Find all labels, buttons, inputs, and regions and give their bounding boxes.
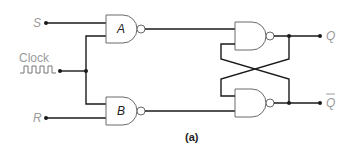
nand-gate-d [235, 89, 266, 117]
gate-label-b: B [117, 104, 125, 118]
input-label-clock: Clock [19, 51, 50, 65]
nand-bubble-d [266, 99, 274, 107]
figure-caption: (a) [185, 131, 199, 143]
wire-clock-fanout [86, 36, 106, 104]
clock-waveform-icon [20, 66, 56, 73]
terminal-qbar [318, 101, 322, 105]
input-label-r: R [33, 111, 42, 125]
terminal-q [318, 34, 322, 38]
output-label-q: Q [326, 29, 335, 43]
nand-gate-c [235, 22, 266, 50]
input-label-s: S [33, 16, 41, 30]
nand-bubble-b [137, 107, 145, 115]
clocked-sr-latch-diagram: S Clock R A B Q Q (a) [0, 0, 354, 151]
junction-clock [84, 69, 88, 73]
nand-bubble-a [137, 25, 145, 33]
nand-bubble-c [266, 32, 274, 40]
terminal-clock [58, 69, 62, 73]
terminal-r [44, 116, 48, 120]
gate-label-a: A [116, 22, 125, 36]
terminal-s [44, 21, 48, 25]
output-label-qbar: Q [326, 96, 335, 110]
